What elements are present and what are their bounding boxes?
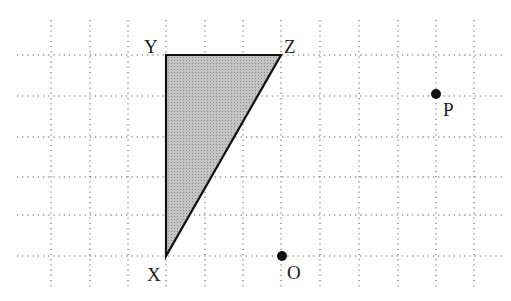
triangle-xyz	[166, 55, 281, 256]
grid-diagram	[0, 0, 511, 301]
vertex-label-y: Y	[144, 37, 158, 56]
vertex-label-z: Z	[284, 37, 296, 56]
point-label-o: O	[287, 263, 301, 282]
point-p-dot	[431, 89, 441, 99]
vertex-label-x: X	[147, 265, 161, 284]
point-o-dot	[277, 251, 287, 261]
point-label-p: P	[443, 100, 454, 119]
